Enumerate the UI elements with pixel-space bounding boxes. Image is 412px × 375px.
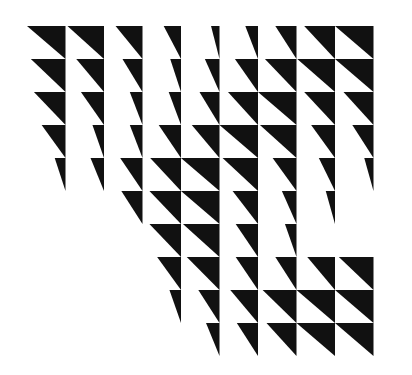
background bbox=[0, 0, 412, 375]
triangle-grid bbox=[0, 0, 412, 375]
artwork-canvas bbox=[0, 0, 412, 375]
